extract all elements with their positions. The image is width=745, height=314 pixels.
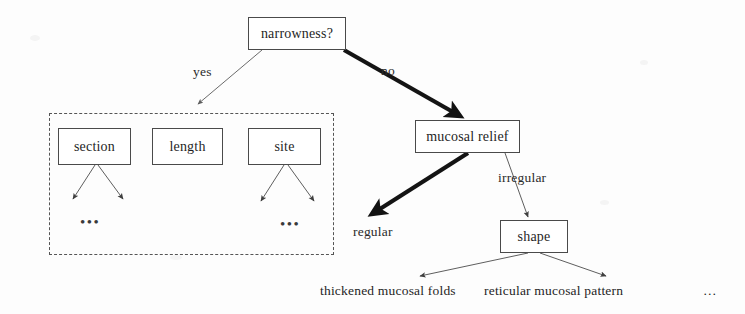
node-mucosal-relief[interactable]: mucosal relief: [415, 120, 520, 153]
node-length[interactable]: length: [152, 128, 223, 165]
edge-root-to-mucosal-relief: [344, 50, 460, 116]
node-site[interactable]: site: [248, 128, 321, 165]
node-site-label: site: [274, 139, 294, 155]
diagram-canvas: narrowness? section length site mucosal …: [0, 0, 745, 314]
ellipsis-section-children: •••: [80, 214, 100, 231]
node-length-label: length: [169, 139, 205, 155]
edge-label-regular: regular: [353, 224, 393, 240]
node-shape-label: shape: [518, 229, 551, 245]
edge-label-yes: yes: [193, 64, 212, 80]
leaf-thickened-mucosal-folds: thickened mucosal folds: [320, 283, 456, 299]
ellipsis-site-children: •••: [280, 216, 300, 233]
edge-label-irregular: irregular: [498, 170, 546, 186]
edge-mucosal-relief-to-regular: [372, 153, 468, 214]
node-section[interactable]: section: [58, 128, 131, 165]
node-shape[interactable]: shape: [500, 220, 568, 253]
leaf-reticular-mucosal-pattern: reticular mucosal pattern: [484, 283, 623, 299]
node-narrowness[interactable]: narrowness?: [248, 17, 346, 50]
edge-shape-to-reticular-pattern: [540, 253, 606, 276]
node-section-label: section: [74, 139, 115, 155]
edge-label-no: no: [381, 63, 395, 79]
node-narrowness-label: narrowness?: [261, 26, 333, 42]
edge-shape-to-thickened-folds: [420, 253, 528, 276]
leaf-more-ellipsis: …: [703, 283, 717, 299]
node-mucosal-relief-label: mucosal relief: [426, 129, 509, 145]
